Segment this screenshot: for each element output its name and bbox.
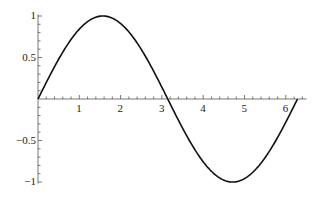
- y-tick-label: −0.5: [16, 135, 36, 146]
- x-tick-label: 4: [200, 103, 206, 114]
- sine-plot: 123456−1−0.50.51: [0, 0, 312, 199]
- x-tick-label: 1: [76, 103, 82, 114]
- y-tick-label: −1: [24, 176, 36, 187]
- x-tick-label: 6: [283, 103, 289, 114]
- x-tick-label: 2: [118, 103, 124, 114]
- y-tick-label: 0.5: [22, 52, 36, 63]
- x-tick-label: 3: [159, 103, 165, 114]
- y-tick-label: 1: [31, 10, 37, 21]
- x-tick-label: 5: [242, 103, 248, 114]
- plot-canvas: [0, 0, 312, 199]
